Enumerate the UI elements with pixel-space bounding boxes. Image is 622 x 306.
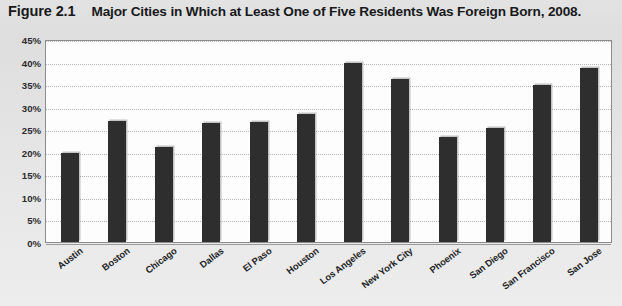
x-axis-tick-label: Chicago: [143, 245, 179, 276]
bar-fill: [533, 85, 551, 242]
y-axis-tick-label: 10%: [22, 192, 41, 203]
y-axis-tick-label: 45%: [22, 35, 41, 46]
bar-series: [46, 41, 611, 242]
bar-fill: [155, 147, 173, 242]
x-axis-tick-label: Boston: [100, 245, 132, 273]
y-axis-tick-label: 40%: [22, 57, 41, 68]
x-axis-tick-label: Austin: [55, 245, 84, 271]
y-axis-tick-label: 15%: [22, 170, 41, 181]
bar-fill: [202, 123, 220, 242]
bar-fill: [108, 121, 126, 242]
x-axis-tick-label: New York City: [360, 245, 415, 290]
y-axis-tick-label: 20%: [22, 147, 41, 158]
bar-fill: [297, 114, 315, 242]
x-axis-tick-label: Houston: [284, 245, 320, 276]
y-axis-tick-label: 35%: [22, 80, 41, 91]
bar-chart-plot-area: [45, 40, 612, 243]
x-axis: AustinBostonChicagoDallasEl PasoHoustonL…: [45, 245, 612, 305]
figure-caption: Figure 2.1 Major Cities in Which at Leas…: [8, 3, 581, 19]
bar-fill: [61, 153, 79, 242]
x-axis-tick-label: San Diego: [467, 245, 510, 281]
x-axis-tick-label: El Paso: [240, 245, 273, 274]
bar-fill: [344, 63, 362, 242]
bar-fill: [439, 137, 457, 242]
x-axis-tick-label: San Jose: [565, 245, 604, 278]
bar-fill: [580, 68, 598, 242]
y-axis-tick-label: 25%: [22, 125, 41, 136]
x-axis-tick-label: Phoenix: [427, 245, 462, 275]
y-axis-tick-label: 30%: [22, 102, 41, 113]
y-axis-tick-label: 5%: [27, 215, 41, 226]
y-axis-tick-label: 0%: [27, 238, 41, 249]
figure-title: Major Cities in Which at Least One of Fi…: [92, 4, 582, 19]
figure-number: Figure 2.1: [8, 3, 76, 19]
bar-fill: [391, 79, 409, 242]
x-axis-tick-label: Dallas: [198, 245, 226, 270]
y-axis: 0%5%10%15%20%25%30%35%40%45%: [0, 40, 41, 243]
bar-fill: [486, 128, 504, 242]
bar-fill: [250, 122, 268, 242]
